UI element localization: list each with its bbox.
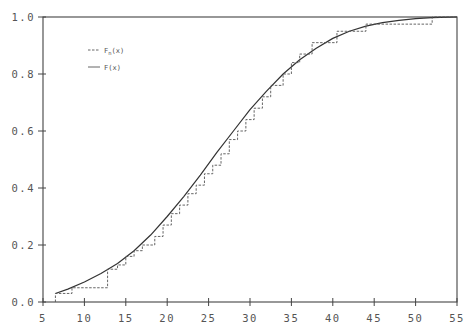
- legend-label: F(x): [104, 64, 121, 72]
- y-tick-label: 0.8: [12, 68, 35, 80]
- legend-label: Fn(x): [104, 47, 124, 57]
- y-tick-label: 0.2: [12, 239, 35, 251]
- x-tick-label: 55: [449, 312, 465, 324]
- empirical-cdf-line: [55, 17, 457, 302]
- x-tick-label: 45: [366, 312, 382, 324]
- axes: 5101520253035404550550.00.20.40.60.81.0: [12, 11, 465, 324]
- plot-frame: [43, 17, 457, 302]
- series-layer: [55, 17, 457, 302]
- x-tick-label: 50: [408, 312, 424, 324]
- x-tick-label: 5: [39, 312, 47, 324]
- x-tick-label: 35: [284, 312, 300, 324]
- y-tick-label: 0.0: [12, 296, 35, 308]
- cdf-chart: 5101520253035404550550.00.20.40.60.81.0 …: [0, 0, 472, 331]
- x-tick-label: 40: [325, 312, 341, 324]
- theoretical-cdf-line: [55, 17, 457, 293]
- legend: Fn(x)F(x): [88, 47, 124, 72]
- x-tick-label: 20: [159, 312, 175, 324]
- y-tick-label: 0.6: [12, 125, 35, 137]
- x-tick-label: 25: [201, 312, 217, 324]
- x-tick-label: 30: [242, 312, 258, 324]
- y-tick-label: 1.0: [12, 11, 35, 23]
- x-tick-label: 10: [77, 312, 93, 324]
- y-tick-label: 0.4: [12, 182, 35, 194]
- x-tick-label: 15: [118, 312, 134, 324]
